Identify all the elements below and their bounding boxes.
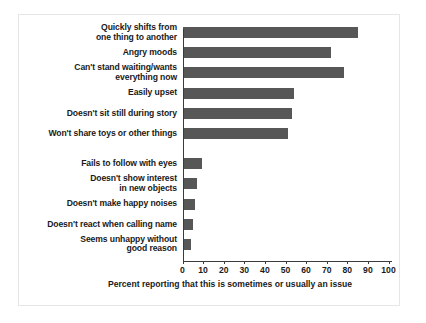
- x-axis-tick: [183, 261, 184, 264]
- category-label-line: good reason: [19, 244, 177, 254]
- category-label: Doesn't make happy noises: [19, 199, 181, 209]
- x-axis-tick-label: 0: [180, 265, 185, 275]
- category-label: Doesn't show interestin new objects: [19, 174, 181, 193]
- category-label: Doesn't react when calling name: [19, 220, 181, 230]
- x-axis-tick-label: 70: [322, 265, 332, 275]
- x-axis-tick: [327, 261, 328, 264]
- x-axis-tick: [306, 261, 307, 264]
- x-axis-tick: [224, 261, 225, 264]
- category-label: Doesn't sit still during story: [19, 109, 181, 119]
- x-axis-tick: [347, 261, 348, 264]
- category-label: Fails to follow with eyes: [19, 159, 181, 169]
- category-label-line: Won't share toys or other things: [19, 129, 177, 139]
- bar: [183, 67, 344, 78]
- x-axis-tick-label: 40: [260, 265, 270, 275]
- x-axis-tick-label: 10: [198, 265, 208, 275]
- x-axis-tick-label: 30: [240, 265, 250, 275]
- bar: [183, 128, 288, 139]
- category-label: Angry moods: [19, 48, 181, 58]
- x-axis-tick-label: 60: [301, 265, 311, 275]
- bar: [183, 88, 294, 99]
- category-label-line: Fails to follow with eyes: [19, 159, 177, 169]
- x-axis-tick: [203, 261, 204, 264]
- category-label: Seems unhappy withoutgood reason: [19, 235, 181, 254]
- chart-page: Quickly shifts fromone thing to anotherA…: [0, 0, 426, 323]
- x-axis-tick: [244, 261, 245, 264]
- bar: [183, 158, 202, 169]
- chart-panel: Quickly shifts fromone thing to anotherA…: [18, 14, 400, 306]
- bar: [183, 178, 197, 189]
- category-label: Won't share toys or other things: [19, 129, 181, 139]
- x-axis-line: [183, 261, 392, 262]
- bar: [183, 27, 358, 38]
- category-label: Can't stand waiting/wantseverything now: [19, 63, 181, 82]
- category-label-line: Easily upset: [19, 88, 177, 98]
- category-label-line: Doesn't sit still during story: [19, 109, 177, 119]
- x-axis-tick: [265, 261, 266, 264]
- category-label-line: Doesn't make happy noises: [19, 199, 177, 209]
- bar: [183, 239, 191, 250]
- x-axis-tick: [286, 261, 287, 264]
- category-label-line: Doesn't react when calling name: [19, 220, 177, 230]
- x-axis-tick: [368, 261, 369, 264]
- category-label-line: in new objects: [19, 184, 177, 194]
- category-label-line: everything now: [19, 73, 177, 83]
- x-axis-caption: Percent reporting that this is sometimes…: [19, 279, 401, 289]
- x-axis-tick-label: 20: [219, 265, 229, 275]
- category-label: Quickly shifts fromone thing to another: [19, 23, 181, 42]
- bar: [183, 219, 193, 230]
- category-label: Easily upset: [19, 88, 181, 98]
- y-axis-line: [183, 29, 184, 262]
- x-axis-tick-label: 80: [343, 265, 353, 275]
- category-label-line: one thing to another: [19, 33, 177, 43]
- bar-series: [183, 27, 401, 259]
- plot-area: Quickly shifts fromone thing to anotherA…: [19, 15, 401, 307]
- x-axis-tick: [389, 261, 390, 264]
- x-axis-tick-label: 100: [381, 265, 395, 275]
- x-axis-tick-label: 50: [281, 265, 291, 275]
- x-axis-tick-label: 90: [363, 265, 373, 275]
- bar: [183, 199, 195, 210]
- bar: [183, 47, 331, 58]
- bar: [183, 108, 292, 119]
- category-label-line: Angry moods: [19, 48, 177, 58]
